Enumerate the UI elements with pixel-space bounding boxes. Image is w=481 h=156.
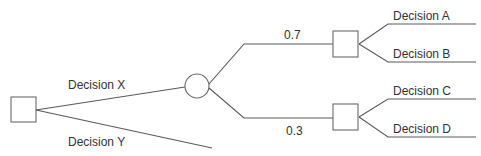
decision-d-label: Decision D — [393, 122, 451, 136]
probability-lower-branch — [209, 88, 333, 118]
decision-c-label: Decision C — [393, 84, 451, 98]
probability-upper-label: 0.7 — [284, 28, 301, 42]
chance-node — [185, 74, 209, 98]
root-decision-node — [11, 97, 36, 122]
decision-y-label: Decision Y — [68, 135, 125, 149]
probability-lower-label: 0.3 — [286, 124, 303, 138]
decision-b-label: Decision B — [393, 47, 450, 61]
decision-tree-diagram: Decision X Decision Y 0.7 0.3 Decision A… — [0, 0, 481, 156]
decision-x-label: Decision X — [68, 78, 125, 92]
upper-decision-node — [333, 31, 358, 57]
decision-a-branch — [359, 24, 476, 44]
lower-decision-node — [333, 104, 358, 130]
probability-upper-branch — [209, 44, 333, 84]
decision-a-label: Decision A — [393, 9, 450, 23]
decision-c-branch — [359, 99, 476, 117]
